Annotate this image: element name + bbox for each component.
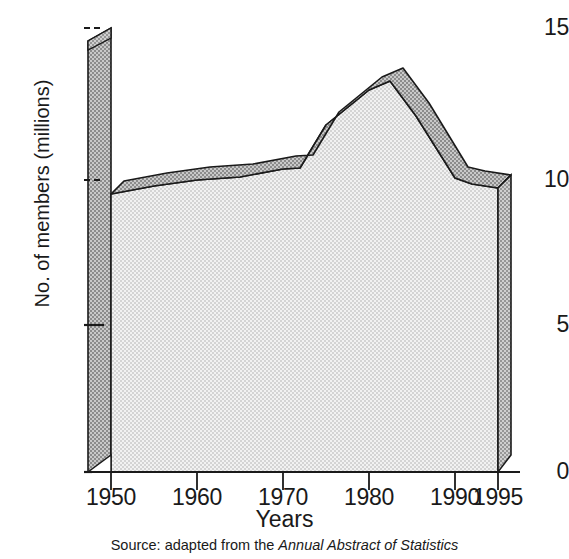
x-axis-title: Years <box>0 506 569 533</box>
chart-plot-area <box>0 0 569 559</box>
source-prefix: Source: adapted from the <box>111 537 279 553</box>
left-wall-3d <box>88 28 111 472</box>
source-publication-title: Annual Abstract of Statistics <box>278 537 458 553</box>
y-axis-title: No. of members (millions) <box>31 44 54 344</box>
y-tick-label-15: 15 <box>491 14 569 41</box>
membership-area-chart: 15 10 5 0 1950 1960 1970 1980 1990 1995 … <box>0 0 569 559</box>
y-tick-label-0: 0 <box>491 458 569 485</box>
y-tick-label-10: 10 <box>491 166 569 193</box>
source-note: Source: adapted from the Annual Abstract… <box>0 537 569 553</box>
y-tick-label-5: 5 <box>491 311 569 338</box>
